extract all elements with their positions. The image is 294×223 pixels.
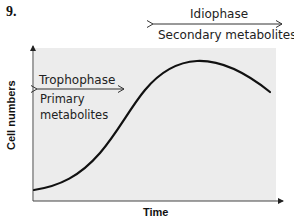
primary-label-line1: Primary xyxy=(40,92,85,106)
idiophase-label: Idiophase xyxy=(190,7,248,21)
y-axis-label: Cell numbers xyxy=(5,80,17,150)
x-axis-label: Time xyxy=(143,206,168,218)
secondary-metabolites-label: Secondary metabolites xyxy=(158,28,294,42)
growth-curve-chart: Trophophase Primary metabolites Idiophas… xyxy=(0,0,294,223)
primary-label-line2: metabolites xyxy=(40,108,108,122)
trophophase-label: Trophophase xyxy=(38,73,115,87)
